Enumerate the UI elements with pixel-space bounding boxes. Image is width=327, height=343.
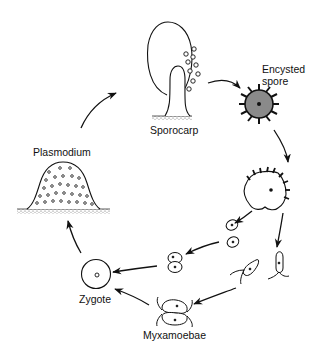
sporocarp-substrate	[152, 116, 192, 120]
arrow-germination-to-myxamoeba	[277, 213, 283, 247]
arrow-sporocarp-to-spore	[208, 80, 240, 88]
arrow-spore-to-germination	[274, 130, 288, 162]
arrow-plasmodium-to-sporocarp	[81, 93, 116, 128]
sporocarp-illustration	[148, 22, 201, 120]
arrow-swarmpair-to-zygote	[113, 266, 157, 272]
swarm-cells-illustration	[168, 218, 241, 273]
arrow-germination-to-swarm	[235, 211, 252, 223]
label-sporocarp: Sporocarp	[150, 124, 198, 136]
arrow-swarm-to-pair	[186, 242, 219, 254]
label-plasmodium: Plasmodium	[33, 146, 91, 158]
arrow-myxpair-to-zygote	[115, 289, 149, 305]
arrow-zygote-to-plasmodium	[68, 221, 81, 253]
label-myxamoebae: Myxamoebae	[143, 329, 206, 341]
arrow-myxamoeba-to-pair	[194, 288, 236, 304]
germinating-spore-illustration	[244, 167, 290, 210]
label-encysted-spore-line2: spore	[262, 75, 288, 87]
encysted-spore-illustration	[239, 84, 279, 124]
label-zygote: Zygote	[79, 293, 111, 305]
plasmodium-substrate	[17, 209, 110, 214]
zygote-illustration	[82, 260, 111, 289]
spore-nucleus	[257, 102, 261, 106]
slime-mold-life-cycle-diagram: Sporocarp Encysted spore Myxamoebae Zygo…	[0, 0, 327, 343]
label-encysted-spore-line1: Encysted	[262, 63, 305, 75]
diagram-canvas	[0, 0, 327, 343]
plasmodium-illustration	[17, 162, 110, 214]
